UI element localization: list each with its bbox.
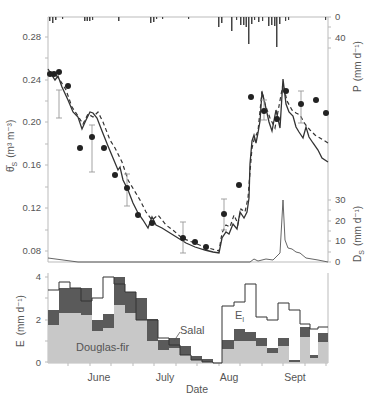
- ds-axis-label: DS(mm d⁻¹): [352, 206, 365, 262]
- month-label-sept: Sept: [284, 371, 306, 383]
- p-axis-label: P(mm d⁻¹): [352, 41, 363, 92]
- bottom-panel: 4 2 0 E(mm d⁻¹): [15, 271, 328, 395]
- theta-axis-label: θ̄S(m³ m⁻³): [5, 120, 18, 172]
- precipitation-bars: [49, 17, 326, 47]
- theta-tick: 0.24: [23, 74, 42, 85]
- e-tick: 2: [36, 314, 41, 325]
- p-tick: 40: [335, 32, 346, 43]
- month-label-aug: Aug: [220, 371, 239, 383]
- figure: 0.28 0.24 0.20 0.16 0.12 0.08 0 40 30 20…: [0, 0, 371, 399]
- ei-label: EI: [235, 309, 244, 323]
- month-label-july: July: [156, 371, 175, 383]
- ds-tick: 20: [335, 215, 346, 226]
- theta-tick: 0.12: [23, 202, 42, 213]
- ds-tick: 30: [335, 194, 346, 205]
- month-label-june: June: [88, 371, 111, 383]
- douglas-fir-label: Douglas-fir: [76, 341, 130, 353]
- e-tick: 4: [36, 271, 41, 282]
- theta-tick: 0.16: [23, 159, 42, 170]
- top-panel: 0.28 0.24 0.20 0.16 0.12 0.08 0 40 30 20…: [5, 11, 365, 267]
- theta-tick: 0.20: [23, 116, 42, 127]
- drainage-line: [48, 200, 328, 262]
- e-axis-label: E(mm d⁻¹): [15, 295, 26, 347]
- p-tick: 0: [335, 11, 340, 22]
- theta-tick: 0.28: [23, 31, 42, 42]
- ds-tick: 10: [335, 235, 346, 246]
- salal-label: Salal: [180, 324, 204, 336]
- x-axis-title: Date: [186, 383, 208, 395]
- ds-tick: 0: [335, 256, 340, 267]
- theta-tick: 0.08: [23, 245, 42, 256]
- e-tick: 0: [36, 357, 41, 368]
